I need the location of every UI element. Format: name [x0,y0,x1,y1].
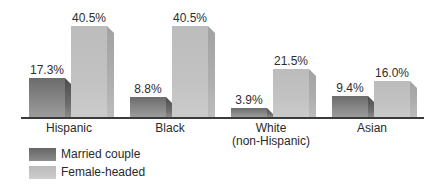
bar-front-face [273,69,309,117]
value-label: 9.4% [325,82,375,94]
bar-front-face [29,78,65,117]
category-label-line: (non-Hispanic) [221,135,321,148]
value-label: 8.8% [123,83,173,95]
value-label: 40.5% [64,12,114,24]
bar-front-face [332,96,368,117]
bar-side-face [410,81,417,117]
x-axis-baseline [21,117,424,119]
bar-front-face [172,26,208,117]
legend-label: Female-headed [61,166,145,179]
category-label: Hispanic [19,122,119,135]
category-label-line: Asian [322,122,422,135]
bar-married-3 [332,96,375,117]
bar-front-face [130,97,166,117]
bar-married-2 [231,108,274,117]
bar-front-face [71,26,107,117]
legend-swatch-married-couple [29,148,56,161]
value-label: 21.5% [266,55,316,67]
category-label-line: Hispanic [19,122,119,135]
bar-chart: 17.3%40.5%8.8%40.5%3.9%21.5%9.4%16.0% Hi… [0,0,444,190]
category-label-line: Black [120,122,220,135]
bar-side-face [309,69,316,117]
bar-side-face [208,26,215,117]
value-label: 3.9% [224,94,274,106]
value-label: 17.3% [22,64,72,76]
bar-side-face [107,26,114,117]
category-label: Black [120,122,220,135]
category-label: Asian [322,122,422,135]
bar-female-1 [172,26,215,117]
bar-front-face [374,81,410,117]
bar-front-face [231,108,267,117]
value-label: 40.5% [165,12,215,24]
legend-label: Married couple [61,148,140,161]
bar-married-0 [29,78,72,117]
bar-married-1 [130,97,173,117]
bar-female-2 [273,69,316,117]
value-label: 16.0% [367,67,417,79]
bar-female-3 [374,81,417,117]
category-label: White(non-Hispanic) [221,122,321,148]
legend-swatch-female-headed [29,166,56,179]
bar-female-0 [71,26,114,117]
